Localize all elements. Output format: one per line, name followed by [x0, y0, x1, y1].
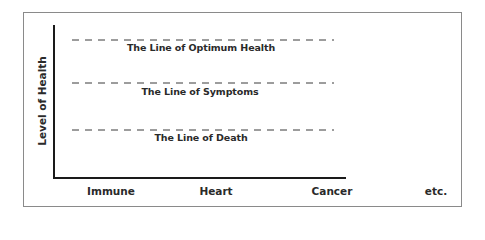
- optimum-health-label: The Line of Optimum Health: [127, 42, 275, 53]
- y-axis-label: Level of Health: [36, 56, 48, 146]
- category-cancer: Cancer: [312, 185, 353, 197]
- optimum-health-line: [72, 39, 334, 41]
- death-line: [72, 129, 334, 131]
- x-axis: [53, 177, 346, 179]
- symptoms-line: [72, 82, 334, 84]
- symptoms-label: The Line of Symptoms: [141, 86, 258, 97]
- category-heart: Heart: [199, 185, 232, 197]
- death-label: The Line of Death: [154, 132, 247, 143]
- category-immune: Immune: [87, 185, 135, 197]
- y-axis: [53, 25, 55, 179]
- category-etc: etc.: [425, 185, 447, 197]
